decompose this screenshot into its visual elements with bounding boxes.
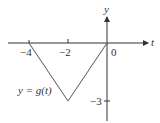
graph-canvas bbox=[0, 0, 160, 123]
t-axis-label: t bbox=[151, 37, 154, 48]
tick-label-neg4: −4 bbox=[20, 47, 32, 58]
y-axis-label: y bbox=[104, 4, 109, 15]
tick-label-neg3: −3 bbox=[90, 96, 102, 107]
curve-label: y = g(t) bbox=[18, 85, 52, 96]
origin-label: 0 bbox=[111, 47, 117, 58]
tick-label-neg2: −2 bbox=[59, 47, 71, 58]
